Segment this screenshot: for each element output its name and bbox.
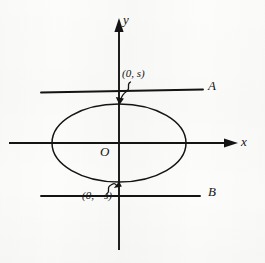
curve-label-b: B [208,185,216,198]
axes-group [9,18,238,250]
x-axis-label: x [241,135,247,148]
coordinate-plane-graphic [0,0,265,263]
line-a-curve [41,90,203,93]
x-axis-arrowhead [224,138,238,147]
point-label-negative-s: (0, −s) [82,190,112,201]
annotation-arrow-top [116,82,131,105]
point-label-positive-s: (0, s) [122,68,145,79]
curve-label-a: A [208,79,216,92]
figure-canvas: y x O A B (0, s) (0, −s) [0,0,265,263]
origin-label: O [100,145,109,158]
y-axis-label: y [123,13,129,26]
